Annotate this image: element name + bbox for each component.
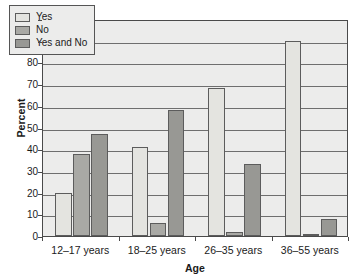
y-tick-label: 50 [14, 124, 38, 134]
x-tick-mark [42, 237, 43, 241]
legend-swatch-yes-and-no-icon [15, 39, 30, 48]
y-tick-mark [38, 129, 42, 130]
y-tick-label: 40 [14, 145, 38, 155]
x-tick-label: 36–55 years [272, 245, 349, 256]
bar [55, 193, 72, 236]
y-tick-label: 60 [14, 102, 38, 112]
bar [285, 41, 302, 236]
bar [208, 88, 225, 236]
y-tick-mark [38, 150, 42, 151]
y-tick-mark [38, 194, 42, 195]
x-tick-mark [195, 237, 196, 241]
x-tick-label: 18–25 years [119, 245, 196, 256]
y-tick-label: 70 [14, 80, 38, 90]
legend-swatch-no-icon [15, 26, 30, 35]
legend-label-no: No [36, 25, 49, 35]
x-tick-mark [272, 237, 273, 241]
bar [321, 219, 338, 236]
y-tick-label: 10 [14, 210, 38, 220]
legend-label-yes-and-no: Yes and No [36, 38, 87, 48]
legend-item-no: No [15, 24, 87, 36]
y-tick-label: 20 [14, 189, 38, 199]
x-tick-label: 26–35 years [195, 245, 272, 256]
legend-swatch-yes-icon [15, 13, 30, 22]
bar [91, 134, 108, 236]
bar [226, 232, 243, 236]
bar [73, 154, 90, 236]
bar [168, 110, 185, 236]
y-tick-mark [38, 20, 42, 21]
y-tick-mark [38, 63, 42, 64]
y-tick-mark [38, 42, 42, 43]
legend-item-yes-and-no: Yes and No [15, 37, 87, 49]
bar [150, 223, 167, 236]
bar [244, 164, 261, 236]
x-axis-title: Age [42, 262, 348, 274]
y-tick-mark [38, 172, 42, 173]
y-tick-mark [38, 107, 42, 108]
bar [303, 234, 320, 236]
y-tick-mark [38, 85, 42, 86]
x-tick-mark [119, 237, 120, 241]
bar [132, 147, 149, 236]
y-tick-label: 0 [14, 232, 38, 242]
legend: Yes No Yes and No [9, 5, 95, 55]
legend-item-yes: Yes [15, 11, 87, 23]
y-tick-label: 80 [14, 58, 38, 68]
y-tick-label: 30 [14, 167, 38, 177]
x-tick-label: 12–17 years [42, 245, 119, 256]
bar-chart-figure: Percent 0102030405060708090100 Yes No Ye… [0, 0, 353, 280]
y-tick-mark [38, 215, 42, 216]
x-tick-mark [348, 237, 349, 241]
